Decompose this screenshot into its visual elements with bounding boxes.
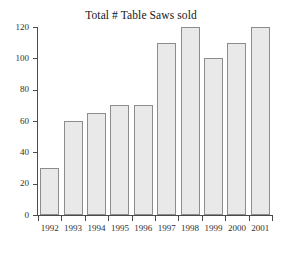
y-axis-tick-label: 120 [1, 23, 29, 32]
bar[interactable] [40, 168, 59, 215]
bar[interactable] [227, 43, 246, 215]
bar[interactable] [157, 43, 176, 215]
y-axis-tick-label: 20 [1, 179, 29, 188]
x-axis-tick [225, 216, 226, 221]
x-axis-tick-label: 2001 [245, 224, 275, 233]
chart-title: Total # Table Saws sold [0, 9, 282, 21]
y-axis-tick-label: 60 [1, 117, 29, 126]
bar[interactable] [134, 105, 153, 215]
plot-area [38, 27, 272, 215]
x-axis-tick [108, 216, 109, 221]
x-axis-tick [178, 216, 179, 221]
x-axis-tick [61, 216, 62, 221]
x-axis-tick [38, 216, 39, 221]
bar[interactable] [87, 113, 106, 215]
x-axis-tick [85, 216, 86, 221]
bar[interactable] [64, 121, 83, 215]
bar[interactable] [251, 27, 270, 215]
bar[interactable] [181, 27, 200, 215]
y-axis-tick-label: 0 [1, 211, 29, 220]
y-axis-tick-label: 100 [1, 54, 29, 63]
x-axis-tick [249, 216, 250, 221]
y-axis-tick-label: 80 [1, 85, 29, 94]
x-axis-tick [132, 216, 133, 221]
x-axis-tick [202, 216, 203, 221]
x-axis-tick [272, 216, 273, 221]
bar[interactable] [110, 105, 129, 215]
bar-chart-figure: Total # Table Saws sold 020406080100120 … [0, 0, 282, 253]
bar[interactable] [204, 58, 223, 215]
x-axis-tick [155, 216, 156, 221]
y-axis-tick-label: 40 [1, 148, 29, 157]
